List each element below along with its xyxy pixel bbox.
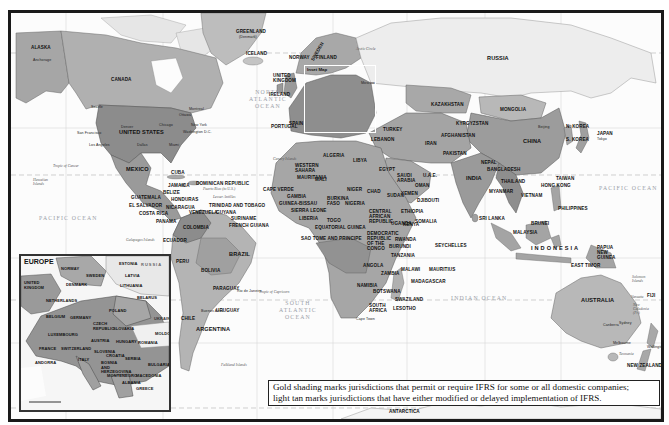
label-togo: TOGO	[327, 218, 341, 223]
label-sydney: Sydney	[619, 321, 632, 325]
inset-label-moldova: MOLDOVA	[155, 331, 171, 336]
inset-label-belarus: BELARUS	[137, 295, 157, 300]
label-lesser-antilles: Lesser Antilles	[213, 195, 235, 199]
label-east-timor: EAST TIMOR	[571, 263, 600, 268]
label-guinea-bissau: GUINEA-BISSAU	[279, 201, 317, 206]
label-honduras: HONDURAS	[171, 197, 198, 202]
label-buenos-aires: Buenos Aires	[201, 309, 223, 313]
caption-line-2: light tan marks jurisdictions that have …	[273, 393, 655, 404]
label-tokyo: Tokyo	[597, 137, 607, 141]
label-china: CHINA	[523, 138, 541, 144]
inset-label-latvia: LATVIA	[125, 273, 140, 278]
inset-label-france: FRANCE	[39, 346, 56, 351]
label-japan: JAPAN	[597, 131, 613, 136]
label-melbourne: Melbourne	[613, 341, 631, 345]
label-cape-verde: CAPE VERDE	[263, 187, 294, 192]
label-ottawa: Ottawa	[179, 113, 191, 117]
inset-label-sweden: SWEDEN	[86, 273, 104, 278]
label-ecuador: ECUADOR	[163, 238, 187, 243]
label-fiji: FIJI	[647, 293, 655, 298]
label-guyana: GUYANA	[216, 210, 236, 215]
label-egypt: EGYPT	[379, 167, 395, 172]
label-south-africa: SOUTH AFRICA	[369, 303, 385, 313]
inset-label-norway: NORWAY	[61, 266, 79, 271]
label-cuba: CUBA	[171, 170, 185, 175]
label-mali: MALI	[315, 177, 327, 182]
label-brunei: BRUNEI	[531, 221, 549, 226]
label-panama: PANAMA	[156, 219, 176, 224]
label-sao-tome: SAO TOME AND PRINCIPE	[301, 236, 362, 241]
label-spain: SPAIN	[289, 121, 303, 126]
label-chicago: Chicago	[159, 123, 173, 127]
inset-label-andorra: ANDORRA	[35, 360, 56, 365]
label-philippines: PHILIPPINES	[558, 206, 588, 211]
label-botswana: BOTSWANA	[373, 289, 401, 294]
label-burkina-faso: BURKINA FASO	[327, 196, 341, 206]
inset-label-croatia: CROATIA	[106, 353, 125, 358]
inset-label-germany: GERMANY	[70, 315, 91, 320]
label-united-kingdom: UNITED KINGDOM	[273, 73, 291, 83]
label-lesotho: LESOTHO	[393, 306, 416, 311]
label-sri-lanka: SRI LANKA	[479, 216, 505, 221]
label-suriname: SURINAME	[231, 216, 256, 221]
label-hong-kong: HONG KONG	[541, 183, 571, 188]
label-greenland-sub: (Denmark)	[239, 35, 257, 39]
label-afghanistan: AFGHANISTAN	[441, 133, 475, 138]
label-malaysia: MALAYSIA	[513, 230, 537, 235]
inset-label-czech: CZECH REPUBLIC	[93, 322, 109, 331]
label-wellington: Wellington	[647, 345, 664, 349]
label-iceland: ICELAND	[246, 51, 267, 56]
label-greenland: GREENLAND	[236, 29, 266, 34]
label-malawi: MALAWI	[401, 267, 420, 272]
label-angola: ANGOLA	[363, 263, 384, 268]
label-nepal: NEPAL	[481, 160, 497, 165]
label-falkland: Falkland Islands	[221, 363, 247, 367]
inset-label-belgium: BELGIUM	[46, 314, 65, 319]
world-map-frame: Inset Map ALASKA Anchorage CANADA UNITED…	[8, 10, 664, 422]
label-mexico: MEXICO	[126, 166, 149, 172]
inset-label-united-kingdom: UNITED KINGDOM	[24, 280, 48, 290]
label-indonesia: INDONESIA	[531, 245, 580, 251]
inset-label-denmark: DENMARK	[66, 282, 87, 287]
inset-label-serbia: SERBIA	[125, 356, 141, 361]
label-tropic-of-capricorn: Tropic of Capricorn	[259, 290, 289, 294]
label-venezuela: VENEZUELA	[189, 210, 218, 215]
label-brazil: BRAZIL	[229, 251, 250, 257]
label-s-korea: S. KOREA	[566, 137, 589, 142]
label-algeria: ALGERIA	[323, 153, 344, 158]
label-kyrgyzstan: KYRGYZSTAN	[456, 121, 488, 126]
label-rio: Rio de Janeiro	[237, 289, 262, 293]
inset-label-ukraine: UKRAINE	[154, 316, 171, 321]
label-costa-rica: COSTA RICA	[139, 211, 168, 216]
label-uganda: UGANDA	[391, 221, 412, 226]
label-tanzania: TANZANIA	[391, 253, 415, 258]
inset-label-netherlands: NETHERLANDS	[46, 298, 77, 303]
label-antarctica: ANTARCTICA	[389, 409, 420, 414]
inset-label-romania: ROMANIA	[138, 340, 158, 345]
label-colombia: COLOMBIA	[183, 225, 209, 230]
label-nigeria: NIGERIA	[345, 201, 365, 206]
inset-label-poland: POLAND	[109, 308, 127, 313]
label-united-states: UNITED STATES	[119, 129, 164, 135]
label-chile: CHILE	[181, 316, 195, 321]
label-taiwan: TAIWAN	[556, 176, 574, 181]
inset-label-bulgaria: BULGARIA	[148, 362, 170, 367]
label-indian-ocean: INDIAN OCEAN	[451, 295, 507, 302]
label-south-atlantic-ocean: SOUTH ATLANTIC OCEAN	[279, 300, 317, 321]
label-los-angeles: Los Angeles	[89, 143, 110, 147]
label-san-francisco: San Francisco	[77, 131, 101, 135]
caption-line-1: Gold shading marks jurisdictions that pe…	[273, 382, 655, 393]
label-montreal: Montreal	[189, 107, 204, 111]
label-alaska: ALASKA	[31, 45, 51, 50]
label-north-atlantic-ocean: NORTH ATLANTIC OCEAN	[249, 89, 287, 110]
inset-label-montenegro: MONTENEGRO	[107, 373, 137, 378]
inset-label-lithuania: LITHUANIA	[120, 283, 142, 288]
label-ethiopia: ETHIOPIA	[401, 209, 424, 214]
label-arctic-circle: Arctic Circle	[356, 47, 375, 51]
label-russia: RUSSIA	[487, 55, 509, 61]
inset-marker-box	[304, 65, 376, 133]
label-rwanda: RWANDA	[395, 237, 416, 242]
inset-label-estonia: ESTONIA	[119, 261, 137, 266]
label-paraguay: PARAGUAY	[213, 286, 239, 291]
label-oman: OMAN	[415, 183, 429, 188]
